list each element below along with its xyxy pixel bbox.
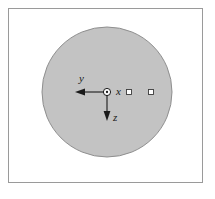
- square-marker-2: [149, 90, 154, 95]
- figure-root: y x z: [0, 0, 215, 199]
- z-axis-label: z: [113, 112, 117, 123]
- diagram-canvas: [0, 0, 215, 199]
- y-axis-label: y: [79, 73, 84, 84]
- square-marker-1: [127, 90, 132, 95]
- x-axis-origin-dot-icon: [106, 91, 108, 93]
- x-axis-label: x: [116, 86, 121, 97]
